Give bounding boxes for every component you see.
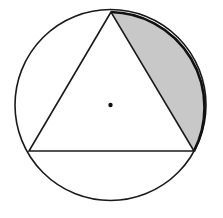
shaded-circular-segment <box>111 12 204 151</box>
circle-center-point <box>108 103 112 107</box>
diagram-canvas <box>0 0 223 218</box>
inscribed-triangle-diagram <box>0 0 223 218</box>
